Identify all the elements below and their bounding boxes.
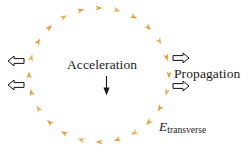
propagation-arrow-right-lower [173,81,189,91]
acceleration-label: Acceleration [67,58,137,72]
field-dash-marker [156,104,164,113]
field-dash-marker [34,104,42,113]
field-dash-marker [77,136,85,143]
field-symbol: E [159,119,167,134]
propagation-arrow-left-lower [8,80,24,90]
field-dash-marker [113,136,121,143]
field-dash-marker [45,23,54,32]
field-dash-marker [34,37,42,46]
field-dash-marker [26,71,31,78]
field-subscript: transverse [167,125,206,135]
field-dash-circle [26,5,171,144]
field-dash-marker [28,54,35,62]
field-dash-marker [163,88,170,96]
field-dash-marker [45,118,54,127]
field-dash-marker [130,129,139,137]
transverse-field-figure: Acceleration Propagation Etransverse [0,0,248,151]
propagation-arrow-left-upper [8,56,24,66]
field-dash-marker [60,129,69,137]
field-dash-marker [60,13,69,21]
field-dash-marker [77,7,85,14]
acceleration-arrow [103,76,109,96]
field-dash-marker [144,23,153,32]
field-dash-marker [113,7,121,14]
field-dash-marker [95,139,102,144]
field-dash-marker [144,118,153,127]
field-dash-marker [156,37,164,46]
propagation-arrow-right-upper [173,53,189,63]
field-dash-marker [163,54,170,62]
transverse-field-label: Etransverse [159,120,206,135]
field-dash-marker [28,88,35,96]
field-dash-marker [130,13,139,21]
field-dash-marker [95,5,102,10]
field-dash-marker [166,71,171,78]
propagation-label: Propagation [174,67,240,81]
